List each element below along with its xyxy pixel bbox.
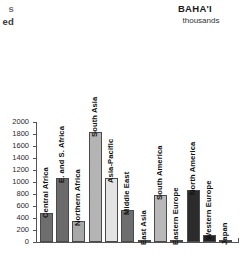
y-axis-tick-label: 200 xyxy=(3,226,29,234)
screenshot-root: s ed BAHA'I thousands 020040060080010001… xyxy=(0,0,246,262)
bar-category-label: Middle East xyxy=(123,171,131,214)
x-axis-end-cap xyxy=(238,238,239,243)
y-axis-tick xyxy=(33,134,36,135)
bar-category-label: Asia-Pacific xyxy=(107,139,115,183)
y-axis-line xyxy=(36,122,37,242)
y-axis-tick xyxy=(33,242,36,243)
plot-area: 0200400600800100012001400160018002000Cen… xyxy=(0,0,246,262)
y-axis-tick xyxy=(33,206,36,207)
y-axis-tick-label: 1200 xyxy=(3,166,29,174)
bar-category-label: East Asia xyxy=(140,210,148,245)
bar-category-label: Central Africa xyxy=(42,167,50,218)
bar xyxy=(105,178,118,242)
bar-category-label: South Asia xyxy=(91,97,99,137)
bar xyxy=(187,190,200,242)
bar-category-label: South America xyxy=(156,145,164,200)
y-axis-tick xyxy=(33,182,36,183)
y-axis-tick xyxy=(33,194,36,195)
y-axis-tick xyxy=(33,218,36,219)
x-axis-line xyxy=(36,242,238,243)
bar-category-label: North America xyxy=(189,142,197,195)
bar xyxy=(89,132,102,242)
bar-category-label: Northern Africa xyxy=(74,169,82,226)
y-axis-tick-label: 400 xyxy=(3,214,29,222)
y-axis-tick-label: 1600 xyxy=(3,142,29,150)
y-axis-tick-label: 1800 xyxy=(3,130,29,138)
bar-category-label: E. and S. Africa xyxy=(58,125,66,182)
y-axis-tick xyxy=(33,158,36,159)
y-axis-tick xyxy=(33,122,36,123)
y-axis-tick-label: 0 xyxy=(3,238,29,246)
y-axis-tick-label: 1400 xyxy=(3,154,29,162)
bar xyxy=(56,178,69,243)
y-axis-tick xyxy=(33,170,36,171)
bar xyxy=(154,195,167,242)
bar-category-label: Western Europe xyxy=(205,181,213,241)
y-axis-tick xyxy=(33,230,36,231)
y-axis-tick-label: 800 xyxy=(3,190,29,198)
y-axis-tick-label: 2000 xyxy=(3,118,29,126)
y-axis-tick-label: 600 xyxy=(3,202,29,210)
bar-chart: 0200400600800100012001400160018002000Cen… xyxy=(0,0,246,262)
bar-category-label: Eastern Europe xyxy=(172,187,180,245)
bar-category-label: Japan xyxy=(221,223,229,245)
y-axis-tick xyxy=(33,146,36,147)
y-axis-tick-label: 1000 xyxy=(3,178,29,186)
